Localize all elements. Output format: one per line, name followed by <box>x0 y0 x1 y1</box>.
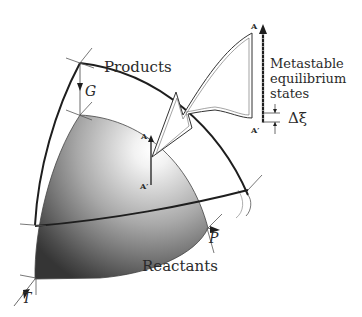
metastable-label-line1: Metastable <box>270 56 344 71</box>
reactants-label: Reactants <box>142 257 218 275</box>
products-label: Products <box>104 58 172 76</box>
point-a-large: A <box>251 21 257 31</box>
point-a-small: A <box>141 131 147 141</box>
reactant-surface <box>35 115 208 279</box>
product-surface-right-edge <box>246 195 251 216</box>
metastable-label-line3: states <box>270 86 309 101</box>
right-faint-arc <box>236 190 243 218</box>
temperature-label: T <box>22 290 31 306</box>
delta-xi-label: Δξ <box>288 109 307 127</box>
pressure-label: P <box>209 230 218 246</box>
point-a-prime-large: A′ <box>251 125 259 135</box>
gibbs-label: G <box>85 83 96 99</box>
point-a-prime-small: A′ <box>140 181 148 191</box>
metastable-label-line2: equilibrium <box>270 71 346 86</box>
